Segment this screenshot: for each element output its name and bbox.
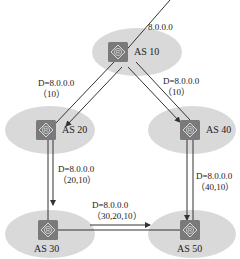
- as50-label: AS 50: [177, 243, 202, 254]
- edge-label-as10-as40: D=8.0.0.0 （10）: [163, 76, 199, 98]
- edge-label-as40-as50: D=8.0.0.0 （40,10）: [196, 171, 234, 193]
- as-path-text: （10）: [163, 87, 199, 98]
- edge-label-as20-as30: D=8.0.0.0 （20,10）: [58, 164, 96, 186]
- destination-text: D=8.0.0.0: [163, 76, 199, 87]
- edge-label-as10-as20: D=8.0.0.0 （10）: [38, 78, 74, 100]
- as20-label: AS 20: [62, 124, 87, 135]
- edge-label-as30-as50: D=8.0.0.0 （30,20,10）: [92, 200, 142, 222]
- destination-text: D=8.0.0.0: [196, 171, 234, 182]
- as30-label: AS 30: [34, 243, 59, 254]
- router-icon[interactable]: [180, 120, 200, 140]
- router-icon[interactable]: [38, 220, 58, 240]
- as-path-text: （20,10）: [58, 175, 96, 186]
- router-icon[interactable]: [108, 42, 128, 62]
- as-path-text: （30,20,10）: [92, 211, 142, 222]
- as-path-text: （40,10）: [196, 182, 234, 193]
- router-icon[interactable]: [180, 220, 200, 240]
- origin-prefix-label: 8.0.0.0: [148, 22, 173, 33]
- as10-label: AS 10: [134, 46, 159, 57]
- as-path-text: （10）: [38, 89, 74, 100]
- router-icon[interactable]: [36, 120, 56, 140]
- destination-text: D=8.0.0.0: [58, 164, 96, 175]
- destination-text: D=8.0.0.0: [38, 78, 74, 89]
- destination-text: D=8.0.0.0: [92, 200, 142, 211]
- as40-label: AS 40: [206, 124, 231, 135]
- arrow-as10-as20: [66, 67, 122, 126]
